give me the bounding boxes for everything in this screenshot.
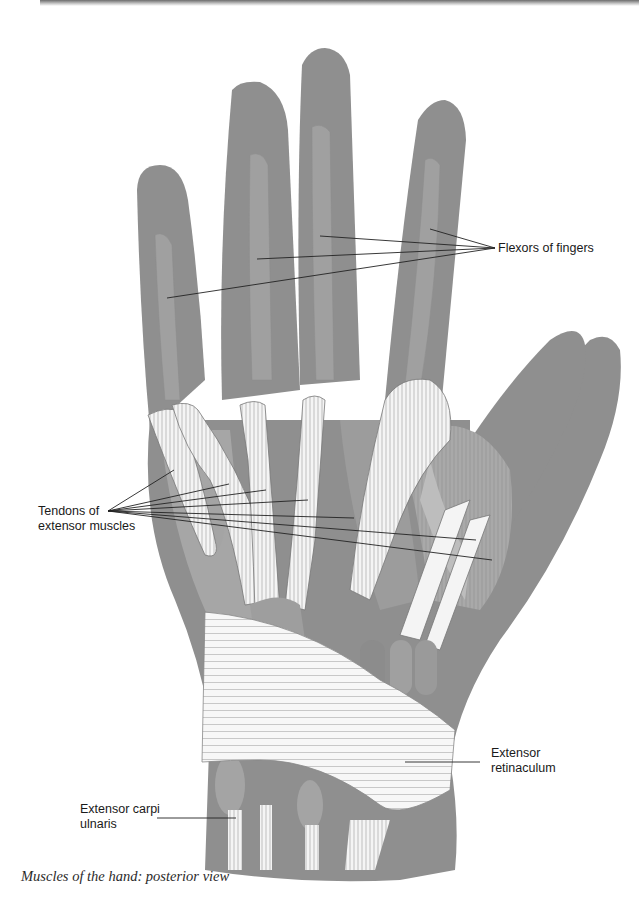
- label-text-line2: ulnaris: [80, 817, 160, 832]
- label-text-line2: retinaculum: [491, 761, 556, 776]
- label-text-line1: Tendons of: [38, 504, 135, 519]
- label-extensor-carpi-ulnaris: Extensor carpi ulnaris: [80, 802, 160, 832]
- label-flexors-of-fingers: Flexors of fingers: [498, 241, 594, 256]
- label-extensor-retinaculum: Extensor retinaculum: [491, 746, 556, 776]
- label-text: Flexors of fingers: [498, 241, 594, 255]
- figure-caption: Muscles of the hand: posterior view: [21, 868, 229, 885]
- label-text-line1: Extensor: [491, 746, 556, 761]
- label-tendons-of-extensor-muscles: Tendons of extensor muscles: [38, 504, 135, 534]
- label-text-line2: extensor muscles: [38, 519, 135, 534]
- label-text-line1: Extensor carpi: [80, 802, 160, 817]
